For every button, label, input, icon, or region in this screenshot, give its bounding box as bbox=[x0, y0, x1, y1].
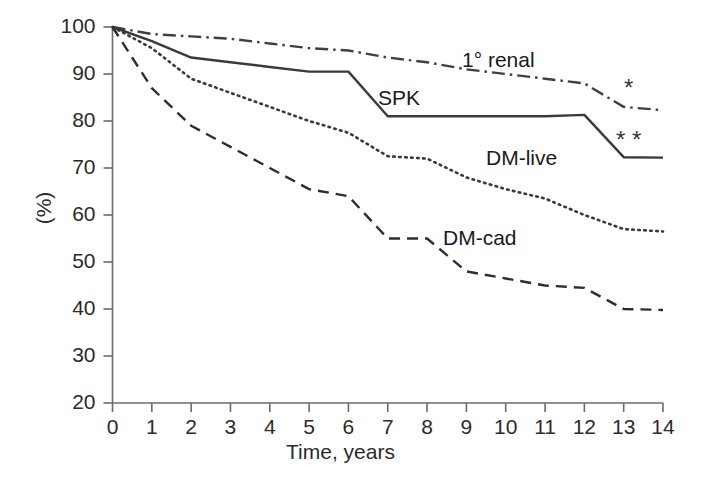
y-tick-label: 90 bbox=[50, 61, 96, 85]
asterisk-renal: * bbox=[624, 76, 633, 100]
axis-ticks bbox=[104, 27, 664, 412]
y-tick-label: 20 bbox=[50, 390, 96, 414]
series-label-spk: SPK bbox=[378, 86, 420, 110]
x-tick-label: 13 bbox=[604, 415, 644, 439]
plot-area bbox=[0, 0, 704, 486]
y-axis-title: (%) bbox=[32, 180, 56, 236]
x-tick-label: 12 bbox=[564, 415, 604, 439]
series-label-1-renal: 1° renal bbox=[462, 48, 535, 72]
x-tick-label: 2 bbox=[171, 415, 211, 439]
x-tick-label: 10 bbox=[486, 415, 526, 439]
y-tick-label: 100 bbox=[50, 14, 96, 38]
y-tick-label: 70 bbox=[50, 155, 96, 179]
x-tick-label: 14 bbox=[643, 415, 683, 439]
x-tick-label: 6 bbox=[328, 415, 368, 439]
y-tick-label: 50 bbox=[50, 249, 96, 273]
series-paths bbox=[113, 27, 664, 310]
x-tick-label: 9 bbox=[446, 415, 486, 439]
x-tick-label: 5 bbox=[289, 415, 329, 439]
x-tick-label: 1 bbox=[132, 415, 172, 439]
x-tick-label: 4 bbox=[250, 415, 290, 439]
survival-curve-figure: 1009080706050403020 01234567891011121314… bbox=[0, 0, 704, 486]
y-tick-label: 80 bbox=[50, 108, 96, 132]
y-tick-label: 30 bbox=[50, 343, 96, 367]
x-tick-label: 3 bbox=[210, 415, 250, 439]
asterisk-spk: * * bbox=[616, 128, 641, 152]
x-tick-label: 11 bbox=[525, 415, 565, 439]
series-label-dm-live: DM-live bbox=[486, 146, 557, 170]
x-tick-label: 8 bbox=[407, 415, 447, 439]
series-line-dm-cad bbox=[113, 27, 664, 310]
x-axis-title: Time, years bbox=[286, 440, 395, 464]
x-tick-label: 7 bbox=[368, 415, 408, 439]
y-tick-label: 40 bbox=[50, 296, 96, 320]
x-tick-label: 0 bbox=[93, 415, 133, 439]
series-label-dm-cad: DM-cad bbox=[443, 226, 517, 250]
y-tick-label: 60 bbox=[50, 202, 96, 226]
